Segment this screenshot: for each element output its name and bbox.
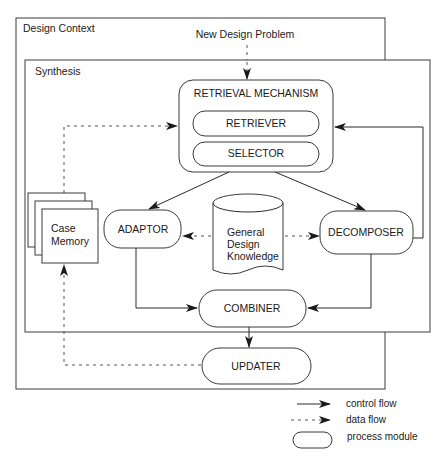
legend: control flow data flow process module (291, 398, 418, 448)
diagram-canvas: Design Context New Design Problem Synthe… (0, 0, 442, 462)
adaptor-module: ADAPTOR (104, 210, 181, 248)
gdk-label-line2: Design (227, 238, 260, 250)
gdk-label-line3: Knowledge (227, 250, 279, 262)
case-memory-store: Case Memory (28, 193, 98, 263)
new-design-problem-label: New Design Problem (196, 28, 295, 40)
legend-control-flow-label: control flow (346, 398, 397, 409)
synthesis-label: Synthesis (35, 65, 81, 77)
decomposer-module: DECOMPOSER (320, 211, 413, 254)
retriever-label: RETRIEVER (226, 117, 287, 129)
case-memory-label-line2: Memory (51, 235, 90, 247)
selector-label: SELECTOR (228, 147, 285, 159)
case-memory-label-line1: Case (51, 222, 76, 234)
retriever-module: RETRIEVER (193, 111, 319, 136)
combiner-label: COMBINER (224, 302, 281, 314)
gdk-label-line1: General (227, 226, 264, 238)
updater-module: UPDATER (202, 348, 311, 384)
design-context-label: Design Context (23, 22, 95, 34)
updater-label: UPDATER (231, 360, 281, 372)
general-design-knowledge-store: General Design Knowledge (213, 194, 283, 274)
selector-module: SELECTOR (193, 142, 319, 166)
combiner-module: COMBINER (199, 290, 306, 327)
adaptor-label: ADAPTOR (118, 223, 169, 235)
decomposer-label: DECOMPOSER (328, 226, 404, 238)
legend-process-module-shape (293, 432, 332, 448)
legend-process-module-label: process module (347, 431, 418, 442)
legend-data-flow-label: data flow (346, 414, 387, 425)
retrieval-mechanism-label: RETRIEVAL MECHANISM (194, 87, 318, 99)
retrieval-mechanism-module: RETRIEVAL MECHANISM RETRIEVER SELECTOR (179, 80, 333, 172)
